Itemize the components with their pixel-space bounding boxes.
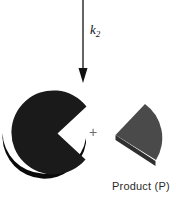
reaction-scheme-figure: k2 + Product (P) (0, 0, 176, 199)
product-caption: Product (P) (112, 180, 170, 192)
product-wedge-shape (110, 96, 172, 172)
plus-sign: + (86, 124, 100, 140)
rate-constant-subscript: 2 (96, 29, 101, 39)
substrate-body (11, 90, 86, 174)
rate-constant-label: k2 (90, 22, 100, 39)
arrow-head-icon (79, 68, 88, 83)
reaction-arrow (60, 0, 110, 90)
substrate-pacman-shape (0, 86, 94, 186)
